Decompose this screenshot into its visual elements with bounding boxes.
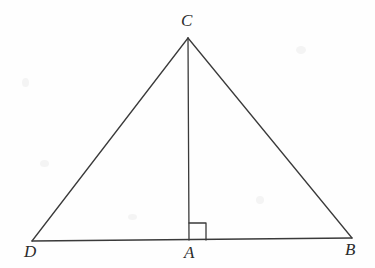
segment-CA-altitude xyxy=(188,38,189,240)
geometry-figure: C D A B xyxy=(0,0,375,268)
vertex-label-c: C xyxy=(181,12,192,29)
vertex-label-b: B xyxy=(345,241,355,258)
segment-DB-base xyxy=(32,238,352,241)
vertex-label-a: A xyxy=(184,244,194,261)
segment-DC xyxy=(32,38,188,241)
figure-canvas xyxy=(0,0,375,268)
segment-CB xyxy=(188,38,352,238)
right-angle-marker xyxy=(189,223,206,240)
vertex-label-d: D xyxy=(24,243,36,260)
